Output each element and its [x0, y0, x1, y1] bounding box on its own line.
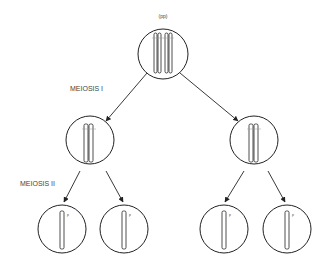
chromosome-pair-1: [152, 33, 163, 73]
gamete-cell-4: p: [263, 205, 311, 253]
parent-cell: [138, 29, 188, 79]
stage-label-meiosis-2: MEIOSIS II: [20, 180, 55, 187]
arrow-meiosis1-right: [180, 73, 238, 121]
genotype-label: (pp): [159, 13, 168, 19]
arrow-meiosis2-rl: [225, 171, 244, 202]
allele-label: p: [129, 213, 131, 217]
allele-label: p: [292, 213, 294, 217]
allele-label: p: [67, 213, 69, 217]
meiosis-diagram: (pp) MEIOSIS I MEIOSIS II: [0, 0, 326, 273]
gamete-cell-3: p: [200, 205, 248, 253]
allele-label: p: [229, 213, 231, 217]
meiosis1-cell-right: [230, 116, 278, 164]
chromosome-pair-2: [163, 33, 174, 73]
meiosis1-cell-left: [66, 116, 114, 164]
arrow-meiosis2-ll: [64, 171, 80, 202]
gamete-cell-2: p: [100, 205, 148, 253]
gamete-cell-1: p: [38, 205, 86, 253]
arrow-meiosis2-rr: [268, 171, 285, 202]
stage-label-meiosis-1: MEIOSIS I: [70, 85, 103, 92]
arrow-meiosis1-left: [106, 73, 147, 121]
arrow-meiosis2-lr: [106, 171, 123, 202]
